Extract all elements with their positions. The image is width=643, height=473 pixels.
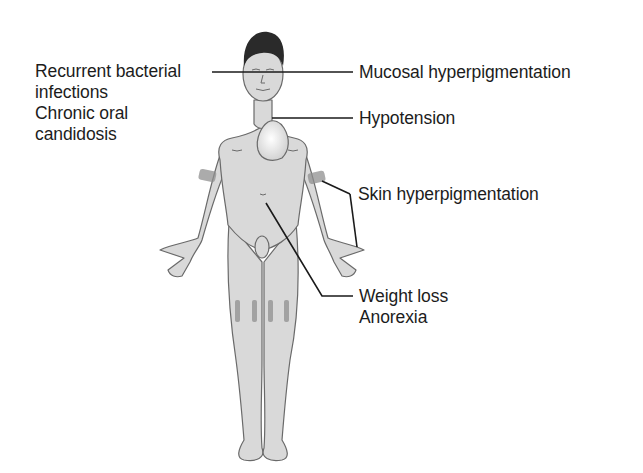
leader-skin-hand	[350, 194, 357, 247]
label-weight-loss-anorexia: Weight loss Anorexia	[359, 286, 448, 328]
left-leg	[228, 222, 263, 461]
leader-skin-arm	[322, 181, 350, 194]
label-mucosal-hyperpigmentation: Mucosal hyperpigmentation	[359, 62, 571, 83]
right-leg	[263, 222, 298, 461]
left-arm	[160, 150, 228, 277]
right-arm	[298, 150, 364, 277]
label-chronic-oral-candidosis: Chronic oral candidosis	[35, 103, 128, 145]
pigment-left-arm	[198, 168, 217, 182]
label-skin-hyperpigmentation: Skin hyperpigmentation	[358, 184, 539, 205]
label-hypotension: Hypotension	[359, 108, 455, 129]
diagram-canvas: Recurrent bacterial infections Chronic o…	[0, 0, 643, 473]
label-recurrent-bacterial-infections: Recurrent bacterial infections	[35, 61, 181, 103]
